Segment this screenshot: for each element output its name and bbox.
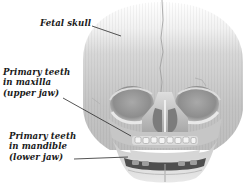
label-line: Primary teeth [9,131,76,141]
label-line: (lower jaw) [9,152,76,162]
label-line: Fetal skull [40,18,91,28]
label-line: (upper jaw) [3,88,70,98]
label-line: Primary teeth [3,67,70,77]
label-primary-teeth-mandible: Primary teeth in mandible (lower jaw) [9,131,76,162]
label-primary-teeth-maxilla: Primary teeth in maxilla (upper jaw) [3,67,70,98]
label-line: in maxilla [3,77,70,87]
fetal-skull-diagram: Fetal skull Primary teeth in maxilla (up… [0,0,243,185]
label-fetal-skull: Fetal skull [40,18,91,28]
label-line: in mandible [9,141,76,151]
